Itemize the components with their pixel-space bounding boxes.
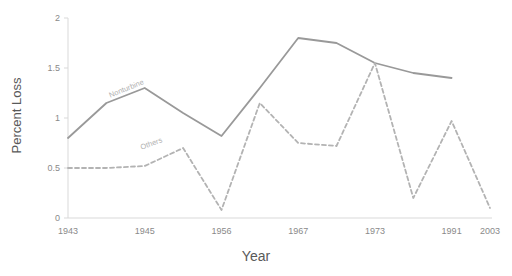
x-tick-label: 1943: [43, 226, 93, 236]
series-line-others: [68, 63, 490, 210]
x-tick-label: 1956: [196, 226, 246, 236]
y-tick-label: 2: [28, 13, 60, 23]
line-chart: Percent Loss 00.511.52 19431945195619671…: [0, 0, 512, 276]
x-tick-label: 1945: [120, 226, 170, 236]
y-tick-label: 0.5: [28, 163, 60, 173]
y-tick-label: 0: [28, 213, 60, 223]
y-tick-label: 1: [28, 113, 60, 123]
series-line-nonturbine: [68, 38, 452, 138]
x-axis-title: Year: [0, 248, 512, 264]
x-tick-label: 1967: [273, 226, 323, 236]
x-tick-label: 2003: [465, 226, 512, 236]
axis-lines: [68, 18, 492, 218]
y-tick-marks: [64, 18, 68, 218]
x-tick-label: 1973: [350, 226, 400, 236]
data-series-layer: [68, 38, 490, 210]
y-tick-label: 1.5: [28, 63, 60, 73]
